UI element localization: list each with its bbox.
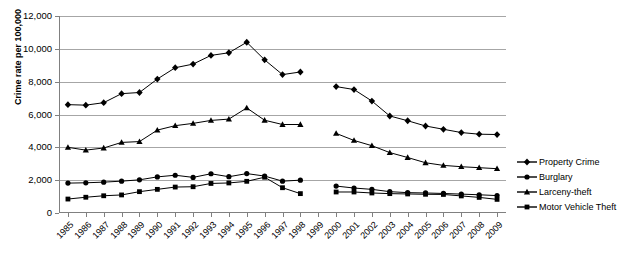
data-point [334, 190, 339, 195]
x-axis-tick-mark [175, 213, 176, 217]
x-axis-tick-mark [318, 213, 319, 217]
data-point [458, 129, 464, 136]
x-axis-tick-mark [193, 213, 194, 217]
x-axis-tick-mark [461, 213, 462, 217]
data-point [404, 117, 410, 124]
data-point [172, 64, 178, 71]
legend-item[interactable]: Burglary [516, 169, 626, 184]
x-axis-tick-mark [372, 213, 373, 217]
data-point [477, 195, 482, 200]
circle-marker-icon [516, 171, 538, 183]
x-axis-tick-mark [283, 213, 284, 217]
data-point [280, 185, 285, 190]
series-larceny-theft [65, 105, 500, 171]
chart-container: Crime rate per 100,000 02,0004,0006,0008… [0, 0, 626, 256]
legend-item[interactable]: Motor Vehicle Theft [516, 199, 626, 214]
legend-label: Burglary [539, 172, 573, 182]
data-point [370, 191, 375, 196]
x-axis-tick-mark [336, 213, 337, 217]
data-point [334, 183, 339, 188]
data-point [83, 102, 89, 109]
data-point [65, 101, 71, 108]
y-axis-tick-label: 2,000 [0, 174, 52, 185]
data-point [495, 197, 500, 202]
data-point [262, 175, 267, 180]
legend-label: Property Crime [539, 157, 600, 167]
diamond-marker-icon [516, 156, 538, 168]
data-point [244, 105, 250, 111]
data-point [83, 180, 88, 185]
x-axis-tick-mark [122, 213, 123, 217]
data-point [387, 191, 392, 196]
data-point [136, 89, 142, 96]
x-axis-tick-mark [443, 213, 444, 217]
data-point [423, 192, 428, 197]
data-point [405, 192, 410, 197]
x-axis-tick-mark [86, 213, 87, 217]
series-line [336, 133, 497, 168]
legend-item[interactable]: Larceny-theft [516, 184, 626, 199]
data-point [101, 180, 106, 185]
data-point [262, 117, 268, 123]
data-point [244, 179, 249, 184]
data-point [351, 86, 357, 93]
data-point [494, 131, 500, 138]
data-point [191, 184, 196, 189]
data-point [297, 69, 303, 76]
x-axis-tick-mark [390, 213, 391, 217]
data-point [440, 126, 446, 133]
x-axis-tick-mark [68, 213, 69, 217]
x-axis-tick-mark [408, 213, 409, 217]
data-point [173, 185, 178, 190]
data-point [173, 173, 178, 178]
data-point [101, 193, 106, 198]
x-axis-tick-mark [497, 213, 498, 217]
legend-item[interactable]: Property Crime [516, 154, 626, 169]
data-point [226, 174, 231, 179]
data-point [119, 193, 124, 198]
data-point [476, 131, 482, 138]
data-point [101, 99, 107, 106]
y-axis-tick-label: 10,000 [0, 43, 52, 54]
plot-area [59, 16, 506, 213]
chart-legend: Property CrimeBurglaryLarceny-theftMotor… [516, 154, 626, 214]
data-point [422, 123, 428, 130]
series-line [68, 42, 300, 105]
x-axis-tick-mark [300, 213, 301, 217]
data-point [155, 187, 160, 192]
x-axis-tick-mark [426, 213, 427, 217]
legend-label: Motor Vehicle Theft [539, 202, 616, 212]
data-point [118, 90, 124, 97]
data-point [191, 175, 196, 180]
data-point [352, 190, 357, 195]
y-axis-tick-mark [55, 213, 59, 214]
data-point [190, 61, 196, 68]
data-point [154, 76, 160, 83]
series-layer [59, 16, 506, 213]
data-point [119, 179, 124, 184]
data-point [66, 197, 71, 202]
data-point [137, 177, 142, 182]
y-axis-tick-label: 0 [0, 207, 52, 218]
data-point [65, 181, 70, 186]
y-axis-tick-label: 12,000 [0, 10, 52, 21]
data-point [137, 189, 142, 194]
series-line [68, 108, 300, 150]
x-axis-tick-mark [229, 213, 230, 217]
y-axis-tick-label: 8,000 [0, 76, 52, 87]
data-point [244, 171, 249, 176]
x-axis-tick-mark [157, 213, 158, 217]
x-axis-tick-mark [247, 213, 248, 217]
legend-label: Larceny-theft [539, 187, 592, 197]
data-point [208, 171, 213, 176]
data-point [226, 116, 232, 122]
data-point [298, 191, 303, 196]
data-point [298, 178, 303, 183]
triangle-marker-icon [516, 186, 538, 198]
x-axis-tick-mark [211, 213, 212, 217]
data-point [226, 49, 232, 56]
data-point [226, 181, 231, 186]
x-axis-tick-mark [104, 213, 105, 217]
data-point [83, 195, 88, 200]
data-point [333, 130, 339, 136]
